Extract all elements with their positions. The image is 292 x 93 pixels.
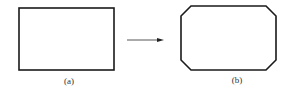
arrow xyxy=(127,38,164,42)
label-b: (b) xyxy=(232,75,243,85)
label-a: (a) xyxy=(64,76,74,86)
diagram-canvas xyxy=(0,0,292,93)
rectangle-a xyxy=(19,8,114,70)
octagon-b xyxy=(181,6,276,70)
